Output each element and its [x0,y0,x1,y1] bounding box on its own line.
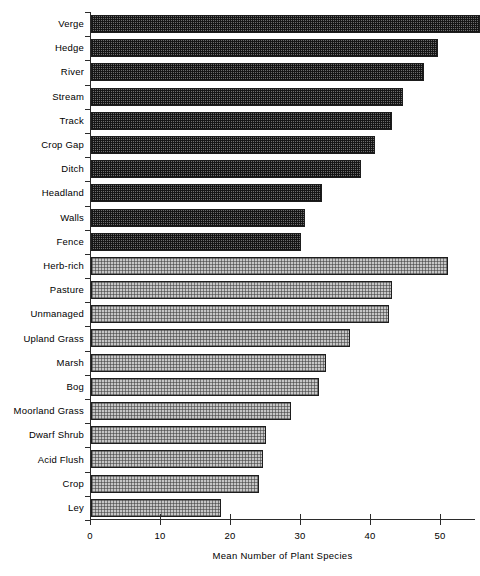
y-axis-tick [85,423,91,424]
y-axis-label-stream: Stream [2,92,84,102]
y-axis-tick [85,254,91,255]
plot-area [90,12,475,519]
bar-row [90,496,475,520]
y-axis-tick [85,36,91,37]
x-axis-tick [440,514,441,525]
x-axis-tick-label: 40 [350,530,390,541]
bar-stream [91,88,403,106]
bar-row [90,109,475,133]
bar-fence [91,233,301,251]
y-axis-label-headland: Headland [2,188,84,198]
bar-row [90,375,475,399]
y-axis-label-unmanaged: Unmanaged [2,309,84,319]
x-axis-tick-label: 20 [210,530,250,541]
y-axis-label-moorland-grass: Moorland Grass [2,406,84,416]
x-axis-tick [230,514,231,525]
bar-river [91,63,424,81]
y-axis-label-herb-rich: Herb-rich [2,261,84,271]
y-axis-label-track: Track [2,116,84,126]
bar-row [90,133,475,157]
y-axis-label-ditch: Ditch [2,164,84,174]
y-axis-tick [85,520,91,521]
bar-marsh [91,354,326,372]
y-axis-tick [85,12,91,13]
y-axis-tick [85,399,91,400]
y-axis-tick [85,447,91,448]
bar-row [90,157,475,181]
bar-verge [91,15,480,33]
bar-row [90,423,475,447]
x-axis-tick-label: 0 [70,530,110,541]
bar-track [91,112,392,130]
y-axis-label-bog: Bog [2,382,84,392]
x-axis-tick [300,514,301,525]
y-axis-tick [85,496,91,497]
bar-crop-gap [91,136,375,154]
y-axis-tick [85,472,91,473]
bar-hedge [91,39,438,57]
bar-bog [91,378,319,396]
x-axis-tick-label: 10 [140,530,180,541]
bar-headland [91,184,322,202]
y-axis-tick [85,230,91,231]
y-axis-tick [85,157,91,158]
bar-row [90,60,475,84]
y-axis-label-crop-gap: Crop Gap [2,140,84,150]
y-axis-tick [85,326,91,327]
bar-unmanaged [91,305,389,323]
y-axis-label-river: River [2,67,84,77]
bar-row [90,399,475,423]
bar-dwarf-shrub [91,426,266,444]
y-axis-label-hedge: Hedge [2,43,84,53]
y-axis-label-fence: Fence [2,237,84,247]
y-axis-label-upland-grass: Upland Grass [2,334,84,344]
bar-row [90,206,475,230]
y-axis-label-dwarf-shrub: Dwarf Shrub [2,430,84,440]
x-axis-tick [370,514,371,525]
bar-walls [91,209,305,227]
y-axis-label-marsh: Marsh [2,358,84,368]
bar-row [90,230,475,254]
y-axis-tick [85,109,91,110]
y-axis-labels: VergeHedgeRiverStreamTrackCrop GapDitchH… [0,12,84,520]
bar-row [90,326,475,350]
bar-crop [91,475,259,493]
y-axis-label-acid-flush: Acid Flush [2,455,84,465]
y-axis-label-ley: Ley [2,503,84,513]
bar-row [90,36,475,60]
y-axis-tick [85,375,91,376]
bar-row [90,85,475,109]
bar-row [90,302,475,326]
y-axis-tick [85,206,91,207]
y-axis-label-verge: Verge [2,19,84,29]
bar-row [90,278,475,302]
x-axis-tick [160,514,161,525]
bar-row [90,181,475,205]
y-axis-tick [85,278,91,279]
bar-row [90,351,475,375]
y-axis-tick [85,85,91,86]
bar-ley [91,499,221,517]
y-axis-label-walls: Walls [2,213,84,223]
bar-row [90,254,475,278]
bar-ditch [91,160,361,178]
x-axis-title: Mean Number of Plant Species [90,550,475,561]
y-axis-tick [85,181,91,182]
bar-pasture [91,281,392,299]
y-axis-tick [85,351,91,352]
y-axis-label-pasture: Pasture [2,285,84,295]
x-axis-tick-label: 50 [420,530,460,541]
y-axis-tick [85,60,91,61]
bar-moorland-grass [91,402,291,420]
bar-row [90,447,475,471]
bar-row [90,12,475,36]
bar-upland-grass [91,329,350,347]
bar-herb-rich [91,257,448,275]
bar-acid-flush [91,450,263,468]
y-axis-tick [85,302,91,303]
y-axis-tick [85,133,91,134]
y-axis-label-crop: Crop [2,479,84,489]
x-axis-tick-label: 30 [280,530,320,541]
bar-row [90,472,475,496]
